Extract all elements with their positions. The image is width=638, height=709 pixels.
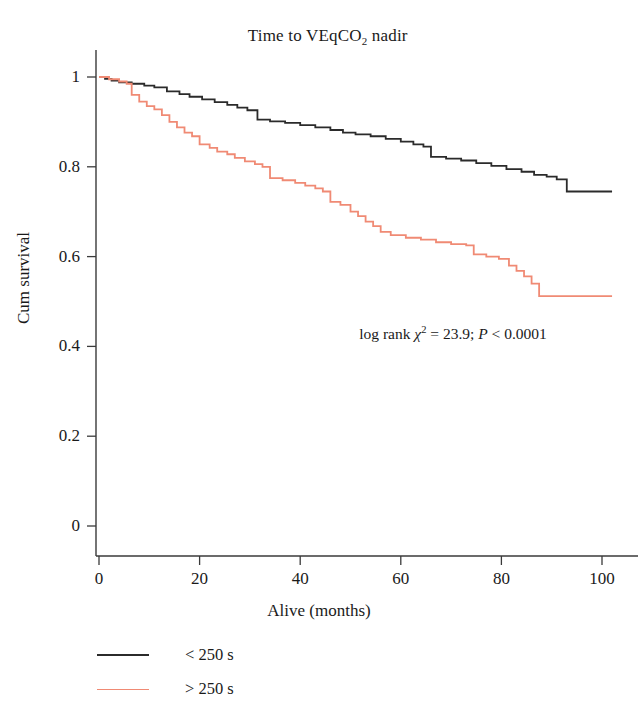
chart-legend: < 250 s> 250 s <box>97 638 427 706</box>
legend-item[interactable]: > 250 s <box>97 672 427 706</box>
x-tick-label: 100 <box>572 570 632 587</box>
p-symbol: P <box>478 325 487 342</box>
annotation-prefix: log rank <box>359 325 414 342</box>
x-axis-label: Alive (months) <box>0 601 638 621</box>
legend-line-swatch <box>97 689 149 690</box>
survival-chart-figure: Time to VEqCO2 nadir 00.20.40.60.81 0204… <box>0 0 638 709</box>
y-axis-label: Cum survival <box>14 218 34 338</box>
survival-curve-lt250 <box>99 77 612 191</box>
x-tick-label: 0 <box>69 570 129 587</box>
legend-line-swatch <box>97 654 149 656</box>
annotation-tail: < 0.0001 <box>488 325 547 342</box>
x-tick-label: 80 <box>471 570 531 587</box>
legend-item[interactable]: < 250 s <box>97 638 427 672</box>
y-tick-label: 0.4 <box>22 337 80 354</box>
y-tick-label: 1 <box>22 68 80 85</box>
y-tick-label: 0.2 <box>22 427 80 444</box>
plot-area: 00.20.40.60.81 020406080100 Cum survival… <box>0 0 638 620</box>
x-tick-label: 40 <box>270 570 330 587</box>
log-rank-annotation: log rank χ2 = 23.9; P < 0.0001 <box>336 306 547 361</box>
legend-label: < 250 s <box>185 645 234 665</box>
survival-curve-gt250 <box>99 77 612 296</box>
series-group <box>99 77 612 296</box>
y-tick-label: 0.8 <box>22 158 80 175</box>
y-tick-label: 0 <box>22 517 80 534</box>
x-tick-label: 60 <box>371 570 431 587</box>
legend-label: > 250 s <box>185 679 234 699</box>
x-tick-label: 20 <box>170 570 230 587</box>
annotation-middle: = 23.9; <box>426 325 478 342</box>
